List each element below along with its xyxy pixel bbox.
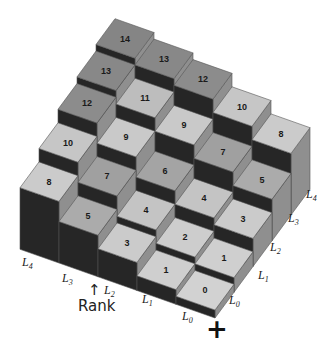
block-value: 11 xyxy=(140,93,150,103)
block-value: 5 xyxy=(259,175,264,185)
block-value: 14 xyxy=(120,34,130,44)
rank-label: Rank xyxy=(78,297,116,315)
block-value: 9 xyxy=(123,132,128,142)
staircase-diagram: 141313121112109910876785445323110 L0L1L2… xyxy=(0,0,328,349)
block-value: 5 xyxy=(85,211,90,221)
block-value: 1 xyxy=(163,265,168,275)
block-value: 7 xyxy=(104,171,109,181)
block-value: 12 xyxy=(82,98,92,108)
block-value: 2 xyxy=(182,232,187,242)
left-axis-label-4: L4 xyxy=(21,255,33,271)
block-value: 13 xyxy=(101,66,111,76)
right-axis-label-0: L0 xyxy=(228,293,240,309)
block-value: 10 xyxy=(63,138,73,148)
block-value: 10 xyxy=(237,102,247,112)
left-axis-label-0: L0 xyxy=(181,309,193,325)
block-value: 3 xyxy=(124,238,129,248)
block-value: 4 xyxy=(143,205,148,215)
right-axis-label-3: L3 xyxy=(287,211,299,227)
block-value: 1 xyxy=(221,253,226,263)
block-value: 3 xyxy=(240,214,245,224)
block-value: 8 xyxy=(278,129,283,139)
block-value: 6 xyxy=(162,166,167,176)
right-axis-label-4: L4 xyxy=(305,187,317,203)
right-axis-label-2: L2 xyxy=(269,240,281,256)
block-value: 13 xyxy=(159,54,169,64)
block-value: 9 xyxy=(181,120,186,130)
right-axis-label-1: L1 xyxy=(257,268,269,284)
block-value: 12 xyxy=(198,74,208,84)
block-value: 8 xyxy=(46,177,51,187)
block-value: 0 xyxy=(202,285,207,295)
block-value: 7 xyxy=(220,147,225,157)
block-value: 4 xyxy=(201,193,206,203)
left-axis-label-3: L3 xyxy=(61,271,73,287)
plus-icon: + xyxy=(206,314,228,344)
